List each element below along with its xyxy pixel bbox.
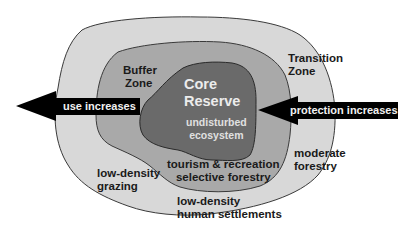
protection-increases-label: protection increases <box>290 104 398 117</box>
forestry-line2: forestry <box>294 160 346 173</box>
buffer-activity-line1: tourism & recreation <box>167 158 279 171</box>
settlements-line2: human settlements <box>177 208 282 221</box>
buffer-zone-title-line2: Zone <box>123 77 157 90</box>
transition-zone-title-line2: Zone <box>288 65 343 78</box>
core-reserve-title: Core Reserve <box>184 76 240 110</box>
core-desc-line2: ecosystem <box>186 129 247 142</box>
biosphere-reserve-diagram: use increases protection increases Buffe… <box>0 0 406 247</box>
buffer-activity-line2: selective forestry <box>167 171 279 184</box>
moderate-forestry-label: moderate forestry <box>294 147 346 173</box>
settlements-label: low-density human settlements <box>177 195 282 221</box>
core-desc-line1: undisturbed <box>186 116 247 129</box>
forestry-line1: moderate <box>294 147 346 160</box>
core-reserve-description: undisturbed ecosystem <box>186 116 247 141</box>
grazing-label: low-density grazing <box>97 167 160 193</box>
buffer-activities-label: tourism & recreation selective forestry <box>167 158 279 184</box>
grazing-line2: grazing <box>97 180 160 193</box>
transition-zone-title: Transition Zone <box>288 52 343 78</box>
transition-zone-title-line1: Transition <box>288 52 343 65</box>
settlements-line1: low-density <box>177 195 282 208</box>
use-increases-label: use increases <box>63 100 136 113</box>
core-reserve-title-line2: Reserve <box>184 93 240 110</box>
buffer-zone-title: Buffer Zone <box>123 64 157 90</box>
buffer-zone-title-line1: Buffer <box>123 64 157 77</box>
core-reserve-title-line1: Core <box>184 76 240 93</box>
grazing-line1: low-density <box>97 167 160 180</box>
